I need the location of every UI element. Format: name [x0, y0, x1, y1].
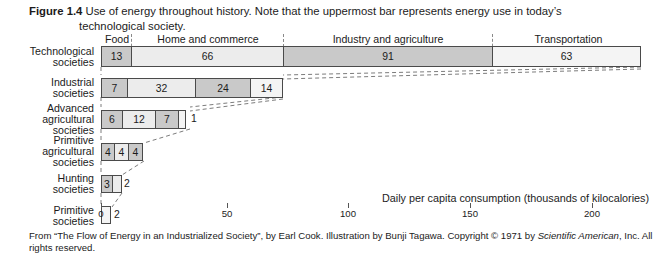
column-header-transportation: Transportation	[496, 33, 641, 45]
row-label-line: societies	[2, 184, 94, 195]
bar-advanced-agricultural-societies: 6 12 7	[101, 110, 186, 129]
x-axis-tick-label: 50	[222, 208, 233, 219]
column-header-home-and-commerce: Home and commerce	[135, 33, 281, 45]
row-label-technological-societies: Technological societies	[2, 46, 94, 68]
bar-segment-food: 3	[101, 175, 112, 193]
bar-segment-industry-and-agriculture: 91	[283, 46, 492, 67]
x-axis: Daily per capita consumption (thousands …	[0, 203, 660, 225]
bar-segment-transportation: 63	[492, 46, 641, 67]
bar-segment-food: 7	[101, 78, 127, 98]
bar-segment-home-and-commerce: 32	[127, 78, 195, 98]
bar-segment-industry-and-agriculture: 7	[155, 110, 178, 129]
source-publication-name: Scientific American	[538, 230, 619, 241]
x-axis-tick-label: 150	[462, 208, 478, 219]
column-header-industry-and-agriculture: Industry and agriculture	[287, 33, 489, 45]
row-label-line: societies	[2, 157, 94, 168]
bar-segment-food: 6	[101, 110, 122, 129]
bar-segment-home-and-commerce: 12	[122, 110, 155, 129]
bar-industrial-societies: 7 32 24 14	[101, 78, 283, 98]
figure-container: Figure 1.4 Use of energy throughout hist…	[0, 0, 660, 255]
figure-source-credit: From “The Flow of Energy in an Industria…	[29, 230, 654, 253]
bar-segment-industry-and-agriculture: 24	[195, 78, 250, 98]
figure-caption-line2: technological society.	[79, 19, 649, 34]
row-label-industrial-societies: Industrial societies	[2, 77, 94, 99]
row-label-line: agricultural	[2, 114, 94, 125]
bar-value-outside-hunting: 2	[124, 178, 130, 189]
row-label-line: societies	[2, 57, 94, 68]
bar-segment-home-and-commerce	[112, 175, 122, 193]
bar-segment-transportation: 14	[250, 78, 283, 98]
bar-primitive-agricultural-societies: 4 4 4	[101, 143, 143, 161]
figure-caption-line1: Use of energy throughout history. Note t…	[86, 5, 562, 17]
bar-value-outside-advanced-agricultural: 1	[191, 113, 197, 124]
figure-caption: Figure 1.4 Use of energy throughout hist…	[29, 4, 649, 33]
x-axis-tick-label: 0	[98, 208, 103, 219]
bar-hunting-societies: 3	[101, 175, 122, 193]
bar-segment-industry-and-agriculture: 4	[128, 143, 143, 161]
bar-segment-home-and-commerce: 4	[114, 143, 128, 161]
bar-segment-transportation	[178, 110, 186, 129]
bar-technological-societies: 13 66 91 63	[101, 46, 641, 67]
row-label-line: agricultural	[2, 146, 94, 157]
source-text-before: From “The Flow of Energy in an Industria…	[29, 230, 538, 241]
x-axis-tick-label: 100	[340, 208, 356, 219]
bar-segment-food: 4	[101, 143, 114, 161]
row-label-advanced-agricultural-societies: Advanced agricultural societies	[2, 103, 94, 135]
x-axis-tick-label: 200	[584, 208, 600, 219]
bar-segment-food: 13	[101, 46, 131, 67]
bar-segment-home-and-commerce: 66	[131, 46, 283, 67]
row-label-hunting-societies: Hunting societies	[2, 173, 94, 195]
row-label-primitive-agricultural-societies: Primitive agricultural societies	[2, 135, 94, 167]
figure-number: Figure 1.4	[29, 5, 82, 17]
column-header-food: Food	[101, 33, 133, 45]
row-label-line: societies	[2, 88, 94, 99]
x-axis-title: Daily per capita consumption (thousands …	[382, 192, 649, 204]
